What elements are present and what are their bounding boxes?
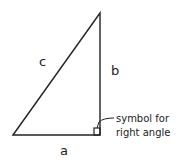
- label-c: c: [39, 54, 46, 69]
- right-angle-symbol: [94, 128, 100, 135]
- annotation-line-1: symbol for: [116, 113, 170, 124]
- label-a: a: [60, 143, 68, 158]
- annotation-line-2: right angle: [116, 127, 170, 138]
- triangle-diagram: c b a symbol for right angle: [0, 0, 193, 164]
- right-triangle: [13, 13, 100, 135]
- label-b: b: [111, 63, 119, 78]
